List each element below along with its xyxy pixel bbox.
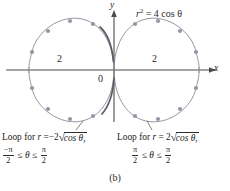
left-lower-denominator: 2 [6,156,10,165]
right-caption-prefix: Loop for [117,132,150,142]
right-upper-denominator: 2 [166,156,170,165]
left-caption-rel-2: ≤ [32,151,37,161]
polar-curve-figure: r2 = 4 cos θ x y 0 2 2 Loop for r =−2√co… [0,0,230,191]
equation-lhs-exponent: 2 [140,7,143,14]
right-caption-rel-2: ≤ [156,151,161,161]
y-axis-label: y [110,1,114,11]
right-caption-upper-bound: π2 [165,146,171,164]
right-loop-extent-label: 2 [152,54,157,64]
y-axis-arrow [111,10,117,17]
right-caption-radicand: cos θ, [176,133,198,143]
left-caption-lower-bound: −π2 [3,146,14,164]
left-caption-line-2: −π2 ≤ θ ≤ π2 [2,146,87,164]
right-caption-lower-bound: π2 [132,146,138,164]
figure-sub-caption: (b) [0,173,230,183]
right-caption-rel-1: ≤ [142,151,147,161]
left-caption-sqrt: √cos θ, [59,132,87,143]
right-caption-line-1: Loop for r = 2√cos θ, [117,132,199,143]
right-upper-numerator: π [165,146,171,156]
left-caption-rel-1: ≤ [17,151,22,161]
right-loop-caption: Loop for r = 2√cos θ, π2 ≤ θ ≤ π2 [117,132,199,165]
right-caption-var: r [152,132,156,142]
right-caption-equals: = [158,132,163,142]
right-caption-line-2: π2 ≤ θ ≤ π2 [117,146,199,164]
right-lower-numerator: π [132,146,138,156]
right-caption-theta: θ [149,151,154,161]
left-caption-coefficient: −2 [49,132,59,142]
right-caption-sqrt: √cos θ, [171,132,199,143]
left-upper-denominator: 2 [42,156,46,165]
left-caption-line-1: Loop for r =−2√cos θ, [2,132,87,143]
left-loop-emphasis-arc [100,27,114,62]
left-caption-theta: θ [25,151,30,161]
right-caption-leader [147,121,152,130]
equation-rhs: = 4 cos θ [146,8,182,19]
left-loop-extent-label: 2 [57,54,62,64]
left-caption-upper-bound: π2 [41,146,47,164]
right-loop-emphasis-arc [102,78,114,114]
equation-label: r2 = 4 cos θ [136,8,182,19]
right-lower-denominator: 2 [133,156,137,165]
left-caption-var: r [37,132,41,142]
left-upper-numerator: π [41,146,47,156]
left-lower-numerator: −π [3,146,14,156]
left-caption-radicand: cos θ, [64,133,86,143]
left-loop-caption: Loop for r =−2√cos θ, −π2 ≤ θ ≤ π2 [2,132,87,165]
origin-label: 0 [98,74,103,84]
x-axis-label: x [214,64,218,74]
left-caption-prefix: Loop for [2,132,35,142]
left-caption-leader [76,121,83,130]
